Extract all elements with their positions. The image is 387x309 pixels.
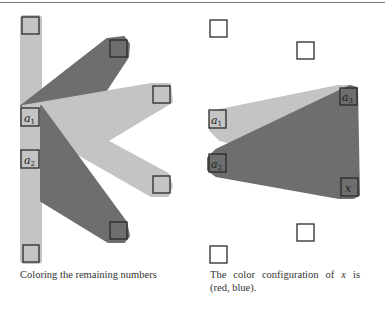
left-panel: a1 a2 (20, 15, 172, 264)
figure-canvas: a1 a2 a1 a2 a3 x (0, 0, 387, 309)
caption-left: Coloring the remaining numbers (20, 268, 200, 281)
label-x: x (345, 182, 352, 195)
light-vertical-region (20, 15, 42, 264)
number-box (210, 20, 227, 37)
right-panel: a1 a2 a3 x (208, 20, 359, 263)
number-box (297, 224, 314, 241)
number-box (210, 246, 227, 263)
caption-right: The color configuration of x is (red, bl… (210, 268, 360, 294)
number-box (297, 42, 314, 59)
